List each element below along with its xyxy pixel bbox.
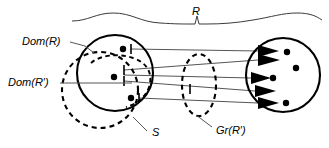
domain-point [111,74,117,80]
arrowhead [251,72,271,84]
codomain-point [284,49,290,55]
label-domain-r: Dom(R) [22,35,61,47]
label-domain-r-prime: Dom(R′) [8,76,49,88]
codomain-points-group [270,49,299,106]
domain-circle [77,35,153,111]
label-domain-r-group: Dom(R) [22,35,94,53]
set-s-circle [62,52,138,128]
relation-diagram: R [0,0,329,148]
arrowhead [258,54,280,66]
relation-brace-right [197,13,322,24]
set-s-leader [133,117,147,131]
codomain-point [270,75,276,81]
mapping-line-5 [139,98,258,103]
codomain-point [283,100,289,106]
domain-points-group [111,44,139,103]
label-graph-r-prime: Gr(R′) [216,124,246,136]
relation-brace-left [72,13,197,24]
label-set-s-group: S [133,117,160,138]
label-set-s: S [152,126,160,138]
domain-point [128,95,134,101]
label-relation: R [192,5,200,17]
figure-container: R [0,0,329,148]
mapping-line-1 [131,49,258,51]
domain-point [120,46,126,52]
relation-brace-group: R [72,5,322,24]
codomain-point [293,65,299,71]
label-graph-r-prime-group: Gr(R′) [196,115,246,136]
arrowhead [255,85,276,97]
mapping-line-3 [124,75,251,78]
arrowhead [258,97,279,109]
graph-r-prime-leader [196,115,212,127]
